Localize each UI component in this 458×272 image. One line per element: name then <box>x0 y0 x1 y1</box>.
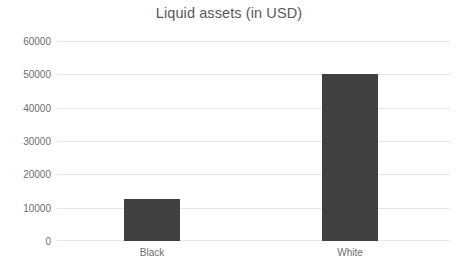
x-axis-tick-label-white: White <box>337 247 363 258</box>
y-axis-tick-labels: 0 10000 20000 30000 40000 50000 60000 <box>0 41 51 241</box>
bar-black <box>124 199 180 241</box>
bar-series <box>57 41 450 241</box>
chart-title: Liquid assets (in USD) <box>0 5 458 21</box>
bar-chart: Liquid assets (in USD) 0 10000 20000 300… <box>0 0 458 272</box>
x-axis-tick-label-black: Black <box>140 247 164 258</box>
bar-white <box>322 74 378 241</box>
plot-area <box>57 41 450 241</box>
y-axis-tick-label: 0 <box>0 236 51 247</box>
y-axis-tick-label: 20000 <box>0 169 51 180</box>
y-axis-tick-label: 50000 <box>0 69 51 80</box>
y-axis-tick-label: 60000 <box>0 36 51 47</box>
y-axis-tick-label: 10000 <box>0 202 51 213</box>
y-axis-tick-label: 40000 <box>0 102 51 113</box>
y-axis-tick-label: 30000 <box>0 136 51 147</box>
x-axis-tick-labels: Black White <box>57 247 450 265</box>
